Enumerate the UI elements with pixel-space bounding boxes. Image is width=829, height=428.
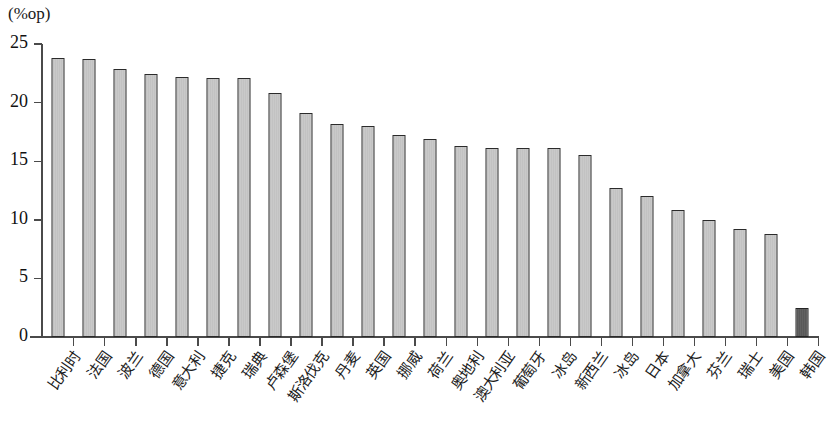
y-tick-label: 0 (0, 325, 28, 346)
x-tick-label: 新西兰 (569, 346, 611, 394)
x-tick-mark (104, 338, 105, 346)
x-tick-mark (446, 338, 447, 346)
bar[interactable] (175, 77, 188, 337)
x-tick-mark (383, 338, 384, 346)
x-tick-mark (135, 338, 136, 346)
bar-slot (756, 44, 787, 337)
bar-slot (259, 44, 290, 337)
bar-slot (446, 44, 477, 337)
bar-slot (228, 44, 259, 337)
x-tick-mark (818, 338, 819, 346)
x-axis-labels: 比利时法国波兰德国意大利捷克瑞典卢森堡斯洛伐克丹麦英国挪威荷兰奥地利澳大利亚葡萄… (42, 346, 818, 428)
x-tick-mark (197, 338, 198, 346)
x-tick-mark (73, 338, 74, 346)
bar[interactable] (486, 148, 499, 337)
y-tick-mark (34, 102, 42, 103)
bar[interactable] (734, 229, 747, 337)
bar[interactable] (144, 74, 157, 337)
x-tick-mark (321, 338, 322, 346)
y-tick-mark (34, 219, 42, 220)
x-tick-label: 芬兰 (702, 346, 736, 382)
bar[interactable] (672, 210, 685, 337)
x-tick-mark (414, 338, 415, 346)
x-tick-mark (477, 338, 478, 346)
bar-slot (197, 44, 228, 337)
bar-slot (725, 44, 756, 337)
x-tick-mark (787, 338, 788, 346)
y-tick-label: 10 (0, 208, 28, 229)
bar[interactable] (579, 155, 592, 337)
bar[interactable] (299, 113, 312, 337)
bar[interactable] (765, 234, 778, 337)
y-tick-mark (34, 161, 42, 162)
bar[interactable] (423, 139, 436, 337)
bar-slot (787, 44, 818, 337)
bar[interactable] (610, 188, 623, 337)
x-tick-mark (725, 338, 726, 346)
bar[interactable] (237, 78, 250, 337)
bar[interactable] (330, 124, 343, 337)
y-tick-mark (34, 43, 42, 44)
y-axis-unit-label: (%op) (8, 4, 50, 24)
x-tick-mark (694, 338, 695, 346)
bar-slot (383, 44, 414, 337)
x-tick-label: 加拿大 (662, 346, 704, 394)
x-tick-label: 韩国 (795, 346, 829, 382)
bar-slot (290, 44, 321, 337)
x-tick-mark (228, 338, 229, 346)
bar[interactable] (206, 78, 219, 337)
x-tick-label: 意大利 (166, 346, 208, 394)
x-tick-label: 葡萄牙 (507, 346, 549, 394)
bar-slot (135, 44, 166, 337)
bar[interactable] (113, 69, 126, 337)
x-tick-mark (570, 338, 571, 346)
bar-slot (104, 44, 135, 337)
bar[interactable] (51, 58, 64, 337)
bar[interactable] (82, 59, 95, 337)
x-tick-label: 波兰 (112, 346, 146, 382)
y-tick-label: 20 (0, 91, 28, 112)
bar[interactable] (517, 148, 530, 337)
plot-area: 0510152025 (42, 44, 818, 337)
bar[interactable] (455, 146, 468, 337)
bar-slot (352, 44, 383, 337)
bar-slot (508, 44, 539, 337)
bar[interactable] (361, 126, 374, 337)
x-tick-mark (539, 338, 540, 346)
bar-slot (601, 44, 632, 337)
x-tick-label: 挪威 (391, 346, 425, 382)
x-tick-mark (601, 338, 602, 346)
y-tick-label: 25 (0, 32, 28, 53)
x-tick-label: 法国 (81, 346, 115, 382)
bar-slot (539, 44, 570, 337)
y-tick-mark (34, 336, 42, 337)
y-tick-mark (34, 278, 42, 279)
bar[interactable] (703, 220, 716, 337)
x-tick-mark (508, 338, 509, 346)
bar-slot (663, 44, 694, 337)
x-tick-mark (352, 338, 353, 346)
bar[interactable] (268, 93, 281, 337)
bar-slot (632, 44, 663, 337)
bar-slot (570, 44, 601, 337)
x-tick-label: 比利时 (42, 346, 84, 394)
bar-slot (166, 44, 197, 337)
x-tick-label: 美国 (764, 346, 798, 382)
y-tick-label: 15 (0, 149, 28, 170)
bar[interactable] (641, 196, 654, 337)
bar-slot (414, 44, 445, 337)
bar-highlighted[interactable] (796, 308, 809, 337)
x-tick-mark (259, 338, 260, 346)
x-tick-label: 丹麦 (329, 346, 363, 382)
x-tick-label: 捷克 (205, 346, 239, 382)
bar-series (42, 44, 818, 337)
bar-slot (477, 44, 508, 337)
bar-slot (42, 44, 73, 337)
bar[interactable] (392, 135, 405, 337)
x-tick-label: 冰岛 (609, 346, 643, 382)
x-tick-mark (290, 338, 291, 346)
bar-slot (694, 44, 725, 337)
bar[interactable] (548, 148, 561, 337)
x-tick-label: 瑞士 (733, 346, 767, 382)
